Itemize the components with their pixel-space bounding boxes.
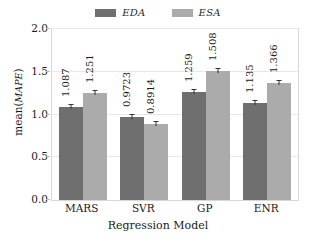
bar-value-label: 1.251 (85, 54, 95, 83)
legend-label-esa: ESA (199, 8, 221, 18)
legend-swatch-eda (95, 9, 116, 17)
bar-eda-enr[interactable] (243, 103, 267, 200)
error-bar-cap (277, 80, 282, 81)
error-bar-cap (154, 121, 159, 122)
bar-wrapper: 1.508 (206, 29, 230, 200)
error-bar-cap (191, 89, 196, 90)
bar-group: 0.97230.8914 (120, 29, 168, 200)
bar-wrapper: 1.135 (243, 29, 267, 200)
bar-esa-gp[interactable] (206, 71, 230, 200)
legend-item-esa: ESA (172, 8, 221, 18)
plot-area: 1.0871.2510.97230.89141.2591.5081.1351.3… (51, 28, 299, 201)
y-tick-label: 0.5 (8, 151, 48, 162)
y-tick-label: 0.0 (8, 194, 48, 205)
y-tick-label: 1.5 (8, 66, 48, 77)
bar-value-label: 1.259 (184, 54, 194, 83)
bar-value-label: 0.8914 (146, 79, 156, 114)
bar-eda-gp[interactable] (182, 92, 206, 200)
x-tick-label: ENR (236, 203, 298, 214)
bar-wrapper: 1.251 (83, 29, 107, 200)
x-tick-label: GP (174, 203, 236, 214)
bar-wrapper: 0.9723 (120, 29, 144, 200)
error-bar-cap (253, 100, 258, 101)
bar-wrapper: 1.087 (59, 29, 83, 200)
y-tick-mark (46, 199, 50, 200)
y-axis-label-metric: MAPE (13, 72, 24, 102)
bar-group: 1.2591.508 (182, 29, 230, 200)
error-bar-cap (92, 90, 97, 91)
y-tick-mark (46, 71, 50, 72)
y-tick-mark (46, 28, 50, 29)
x-tick-label: SVR (113, 203, 175, 214)
bar-value-label: 0.9723 (122, 72, 132, 107)
y-tick-mark (46, 114, 50, 115)
legend-label-eda: EDA (122, 8, 145, 18)
bar-series-container: 1.0871.2510.97230.89141.2591.5081.1351.3… (52, 29, 298, 200)
bar-eda-svr[interactable] (120, 117, 144, 200)
bar-esa-svr[interactable] (144, 124, 168, 200)
y-tick-mark (46, 156, 50, 157)
bar-value-label: 1.508 (208, 32, 218, 61)
legend-item-eda: EDA (95, 8, 145, 18)
x-tick-label: MARS (51, 203, 113, 214)
chart-figure: EDA ESA mean(MAPE) 0.00.51.01.52.0 1.087… (0, 0, 316, 240)
bar-group: 1.1351.366 (243, 29, 291, 200)
error-bar-cap (215, 68, 220, 69)
bar-esa-mars[interactable] (83, 93, 107, 200)
error-bar-cap (130, 114, 135, 115)
bar-eda-mars[interactable] (59, 107, 83, 200)
bar-value-label: 1.366 (269, 45, 279, 74)
bar-wrapper: 1.259 (182, 29, 206, 200)
y-axis-label-text: mean( (12, 102, 24, 135)
bar-esa-enr[interactable] (267, 83, 291, 200)
chart-legend: EDA ESA (0, 4, 316, 22)
bar-wrapper: 1.366 (267, 29, 291, 200)
y-tick-label: 2.0 (8, 23, 48, 34)
x-axis-label: Regression Model (0, 219, 316, 232)
error-bar-cap (68, 104, 73, 105)
bar-group: 1.0871.251 (59, 29, 107, 200)
bar-wrapper: 0.8914 (144, 29, 168, 200)
bar-value-label: 1.087 (61, 68, 71, 97)
y-tick-label: 1.0 (8, 109, 48, 120)
bar-value-label: 1.135 (245, 64, 255, 93)
legend-swatch-esa (172, 9, 193, 17)
